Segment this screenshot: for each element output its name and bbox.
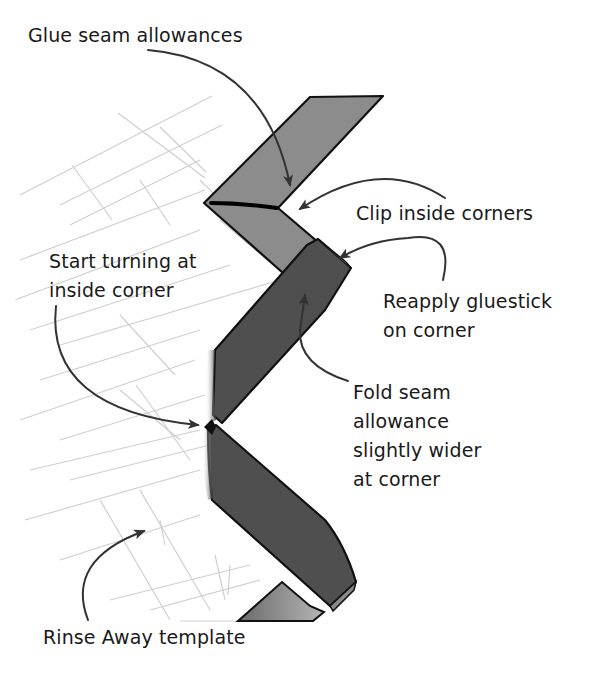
label-reapply-gluestick: Reapply gluestick on corner (383, 287, 552, 345)
label-rinse-away-template: Rinse Away template (43, 623, 246, 652)
arrow-rinse-away (83, 531, 144, 620)
lower-dark-strip (202, 425, 356, 621)
arrow-reapply-gluestick (340, 237, 445, 280)
arrow-start-turning (55, 306, 198, 425)
label-fold-seam-allowance: Fold seam allowance slightly wider at co… (353, 378, 481, 494)
label-clip-inside-corners: Clip inside corners (356, 199, 533, 228)
label-glue-seam-allowances: Glue seam allowances (28, 21, 243, 50)
label-start-turning: Start turning at inside corner (49, 247, 197, 305)
